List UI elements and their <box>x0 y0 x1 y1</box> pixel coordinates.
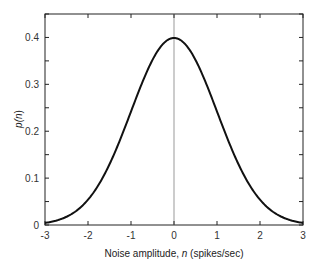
y-tick-label: 0.2 <box>25 126 39 137</box>
x-tick-label: 2 <box>257 230 263 241</box>
y-tick-label: 0.3 <box>25 79 39 90</box>
x-tick-label: -2 <box>84 230 93 241</box>
y-axis-label: p(n) <box>13 110 24 129</box>
y-tick-label: 0 <box>33 220 39 231</box>
tick-labels: -3-2-1012300.10.20.30.4 <box>25 32 306 241</box>
x-tick-label: -1 <box>127 230 136 241</box>
x-tick-label: 0 <box>171 230 177 241</box>
x-axis-label: Noise amplitude, n (spikes/sec) <box>105 248 244 259</box>
x-tick-label: 3 <box>300 230 306 241</box>
y-tick-label: 0.1 <box>25 173 39 184</box>
y-tick-label: 0.4 <box>25 32 39 43</box>
x-tick-label: 1 <box>214 230 220 241</box>
x-tick-label: -3 <box>41 230 50 241</box>
chart: -3-2-1012300.10.20.30.4 Noise amplitude,… <box>0 0 316 263</box>
